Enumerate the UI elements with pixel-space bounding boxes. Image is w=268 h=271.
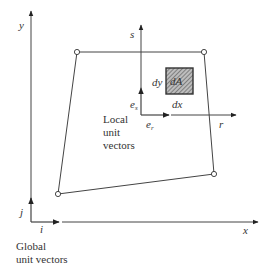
dx-label: dx xyxy=(172,98,183,110)
local-s-label: s xyxy=(130,28,134,40)
local-r-label: r xyxy=(219,118,224,130)
dy-label: dy xyxy=(152,76,163,88)
node-1[interactable] xyxy=(55,191,60,196)
unit-vector-i-label: i xyxy=(40,223,43,235)
diagram: y x j i Global unit vectors s r es er Lo… xyxy=(0,0,268,271)
local-caption-line2: unit xyxy=(103,126,120,138)
es-subscript: s xyxy=(135,104,138,112)
er-subscript: r xyxy=(151,124,154,132)
node-4[interactable] xyxy=(74,49,79,54)
unit-vector-er-label: er xyxy=(146,118,154,132)
area-element-label: dA xyxy=(170,75,183,87)
global-caption-line2: unit vectors xyxy=(16,253,68,265)
node-2[interactable] xyxy=(211,171,216,176)
node-3[interactable] xyxy=(201,49,206,54)
unit-vector-j-label: j xyxy=(18,206,23,218)
local-caption-line3: vectors xyxy=(103,139,135,151)
unit-vector-es-label: es xyxy=(130,98,138,112)
global-caption-line1: Global xyxy=(16,240,46,252)
local-caption-line1: Local xyxy=(103,113,128,125)
global-x-label: x xyxy=(242,224,248,236)
global-y-label: y xyxy=(18,19,24,31)
